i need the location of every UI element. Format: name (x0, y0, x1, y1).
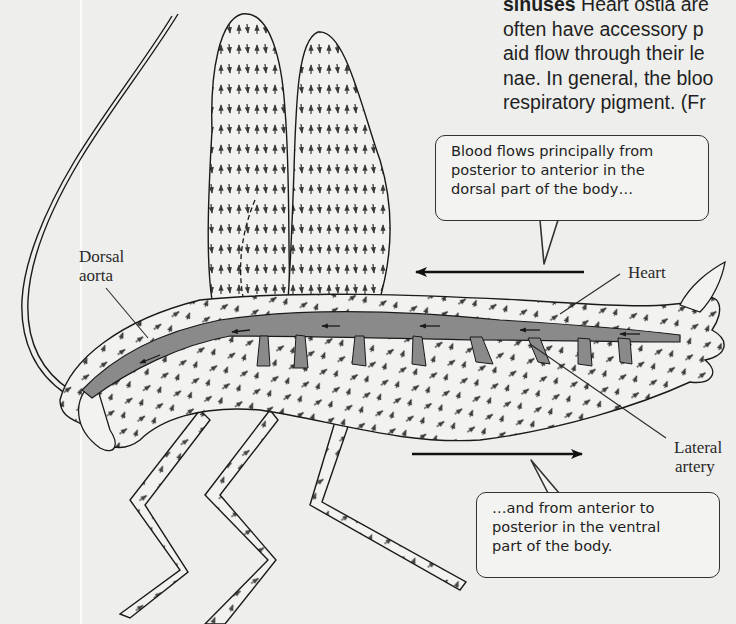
label-line: artery (674, 457, 722, 476)
callout-line: part of the body. (492, 536, 709, 555)
forewing (208, 14, 290, 300)
callout-line: dorsal part of the body… (451, 179, 698, 198)
dorsal-callout-pointer (540, 220, 558, 264)
callout-ventral-flow: …and from anterior to posterior in the v… (476, 492, 720, 578)
label-line: aorta (79, 266, 124, 285)
ventral-callout-pointer (531, 460, 559, 493)
label-dorsal-aorta: Dorsal aorta (79, 247, 124, 285)
callout-line: posterior to anterior in the (451, 160, 698, 179)
label-line: Lateral (674, 438, 722, 457)
callout-line: …and from anterior to (492, 498, 709, 517)
callout-line: posterior in the ventral (492, 517, 709, 536)
label-line: Dorsal (79, 247, 124, 266)
label-lateral-artery: Lateral artery (674, 438, 722, 476)
callout-line: Blood flows principally from (451, 141, 698, 160)
label-heart: Heart (628, 263, 666, 282)
label-line: Heart (628, 263, 666, 282)
callout-dorsal-flow: Blood flows principally from posterior t… (435, 135, 709, 221)
